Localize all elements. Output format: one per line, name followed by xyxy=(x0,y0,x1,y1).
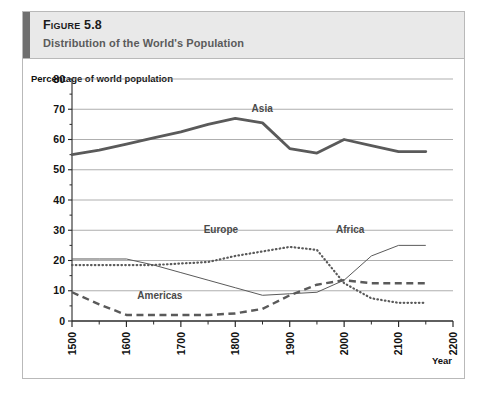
figure-container: Figure 5.8 Distribution of the World's P… xyxy=(22,11,465,379)
x-tick-label: 2200 xyxy=(447,332,459,356)
series-label-africa: Africa xyxy=(336,224,365,235)
y-tick-label: 60 xyxy=(53,133,65,145)
y-tick-label: 0 xyxy=(59,315,65,327)
figure-header: Figure 5.8 Distribution of the World's P… xyxy=(23,12,464,59)
figure-subtitle: Distribution of the World's Population xyxy=(43,37,244,49)
y-tick-label: 80 xyxy=(53,73,65,85)
y-tick-label: 40 xyxy=(53,194,65,206)
y-tick-label: 50 xyxy=(53,163,65,175)
line-chart-plot: 0102030405060708015001600170018001900200… xyxy=(23,59,464,379)
source-caption xyxy=(24,391,464,400)
series-label-europe: Europe xyxy=(204,224,239,235)
x-tick-label: 1500 xyxy=(66,332,78,356)
x-tick-label: 1800 xyxy=(229,332,241,356)
figure-number-label: Figure 5.8 xyxy=(43,18,102,32)
series-line-americas xyxy=(72,280,426,315)
y-tick-label: 30 xyxy=(53,224,65,236)
series-line-asia xyxy=(72,118,426,154)
x-tick-label: 1700 xyxy=(175,332,187,356)
chart-body: Percentage of world population Year 0102… xyxy=(23,59,464,379)
x-tick-label: 1900 xyxy=(284,332,296,356)
series-label-americas: Americas xyxy=(137,290,182,301)
x-tick-label: 2100 xyxy=(392,332,404,356)
series-label-asia: Asia xyxy=(252,103,274,114)
y-tick-label: 10 xyxy=(53,284,65,296)
x-tick-label: 2000 xyxy=(338,332,350,356)
header-accent-bar xyxy=(23,12,30,58)
y-tick-label: 20 xyxy=(53,254,65,266)
x-tick-label: 1600 xyxy=(120,332,132,356)
y-tick-label: 70 xyxy=(53,103,65,115)
